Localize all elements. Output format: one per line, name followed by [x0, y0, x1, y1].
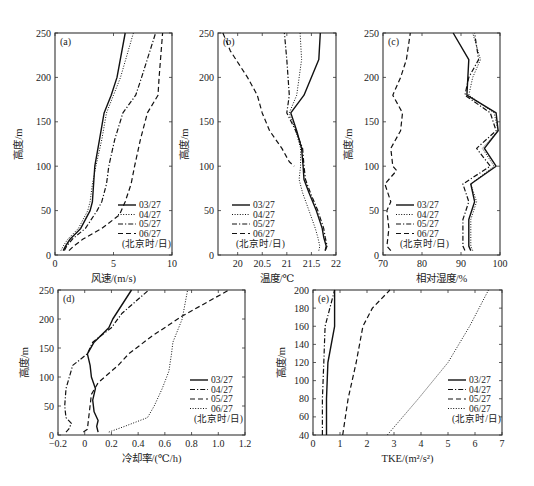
- series-line-05-27: [343, 290, 390, 435]
- series-line-03-27: [327, 290, 335, 435]
- x-tick-label: 1: [338, 438, 343, 449]
- x-tick-label: 10: [167, 258, 177, 269]
- x-tick-label: 0: [311, 438, 316, 449]
- x-tick-label: 22: [331, 258, 341, 269]
- y-tick-label: 150: [199, 116, 214, 127]
- x-tick-label: 21: [282, 258, 292, 269]
- legend-entry: 06/27: [417, 229, 439, 239]
- legend-entry: 04/27: [417, 210, 439, 220]
- y-tick-label: 250: [364, 28, 379, 39]
- y-tick-label: 150: [364, 116, 379, 127]
- series-line-05-27: [83, 290, 229, 432]
- x-axis-label: 相对湿度/%: [416, 272, 468, 284]
- y-tick-label: 200: [199, 72, 214, 83]
- x-tick-label: 5: [446, 438, 451, 449]
- x-tick-label: 0.6: [159, 438, 172, 449]
- legend-entry: 04/27: [139, 210, 161, 220]
- series-line-04-27: [65, 290, 149, 432]
- y-axis-label: 高度/m: [12, 128, 24, 159]
- chart-panel-a: 0510050100150200250风速/(m/s)高度/m(a)03/270…: [12, 28, 177, 286]
- series-line-03-27: [87, 290, 131, 432]
- legend-entry: 05/27: [253, 219, 275, 229]
- legend-entry: 06/27: [469, 404, 491, 414]
- legend-entry: 04/27: [469, 385, 491, 395]
- x-tick-label: 0.8: [185, 438, 198, 449]
- legend-entry: 04/27: [253, 210, 275, 220]
- figure-canvas: 0510050100150200250风速/(m/s)高度/m(a)03/270…: [0, 0, 534, 486]
- x-axis-label: TKE/(m²/s²): [382, 453, 434, 465]
- y-axis-label: 高度/m: [18, 347, 30, 378]
- y-tick-label: 100: [199, 161, 214, 172]
- legend-note: (北京时/日): [400, 238, 449, 250]
- x-tick-label: 20: [233, 258, 243, 269]
- legend: 03/2704/2705/2706/27(北京时/日): [232, 200, 285, 250]
- x-tick-label: 70: [378, 258, 388, 269]
- legend-note: (北京时/日): [122, 238, 171, 250]
- legend-entry: 04/27: [211, 385, 233, 395]
- y-tick-label: 50: [41, 205, 51, 216]
- x-tick-label: 3: [392, 438, 397, 449]
- legend: 03/2704/2705/2706/27(北京时/日): [396, 200, 449, 250]
- y-tick-label: 200: [39, 314, 54, 325]
- legend-note: (北京时/日): [194, 413, 243, 425]
- series-line-06-27: [223, 33, 294, 166]
- y-tick-label: 250: [36, 28, 51, 39]
- y-axis-label: 高度/m: [178, 128, 190, 159]
- panel-label: (a): [60, 36, 71, 48]
- y-tick-label: 100: [364, 161, 379, 172]
- legend-note: (北京时/日): [236, 238, 285, 250]
- panel-label: (c): [388, 36, 399, 48]
- y-axis-label: 高度/m: [275, 347, 287, 378]
- x-tick-label: 5: [111, 258, 116, 269]
- x-tick-label: 0: [82, 438, 87, 449]
- chart-panel-d: −0.200.20.40.60.81.01.2050100150200250冷却…: [18, 285, 251, 466]
- y-tick-label: 250: [199, 28, 214, 39]
- panel-label: (e): [318, 293, 329, 305]
- y-tick-label: 100: [294, 375, 309, 386]
- legend: 03/2704/2705/2706/27(北京时/日): [190, 375, 243, 425]
- x-tick-label: 6: [473, 438, 478, 449]
- series-line-04-27: [61, 33, 133, 251]
- legend: 03/2704/2705/2706/27(北京时/日): [448, 375, 501, 425]
- y-tick-label: 200: [36, 72, 51, 83]
- y-tick-label: 180: [294, 303, 309, 314]
- y-tick-label: 150: [39, 343, 54, 354]
- legend-entry: 05/27: [469, 394, 491, 404]
- x-tick-label: 21.5: [303, 258, 321, 269]
- chart-panel-c: 708090100050100150200250相对湿度/%高度/m(c)03/…: [342, 28, 508, 285]
- y-tick-label: 50: [44, 401, 54, 412]
- x-tick-label: 0.2: [105, 438, 118, 449]
- y-tick-label: 80: [299, 393, 309, 404]
- x-axis-label: 温度/℃: [260, 272, 295, 284]
- series-line-03-27: [291, 33, 326, 251]
- chart-panel-e: 01234567406080100120140160180200TKE/(m²/…: [275, 285, 505, 466]
- chart-panel-b: 2020.52121.522050100150200250温度/℃高度/m(b)…: [178, 28, 341, 285]
- legend-entry: 03/27: [211, 375, 233, 385]
- y-tick-label: 0: [46, 250, 51, 261]
- series-line-06-27: [385, 33, 410, 251]
- y-tick-label: 100: [39, 372, 54, 383]
- x-tick-label: 0.4: [132, 438, 145, 449]
- legend-entry: 05/27: [417, 219, 439, 229]
- y-tick-label: 0: [49, 430, 54, 441]
- y-tick-label: 100: [36, 161, 51, 172]
- y-tick-label: 200: [294, 285, 309, 296]
- x-tick-label: 2: [365, 438, 370, 449]
- y-tick-label: 40: [299, 430, 309, 441]
- x-tick-label: 0: [53, 258, 58, 269]
- legend-entry: 03/27: [469, 375, 491, 385]
- legend-entry: 03/27: [417, 200, 439, 210]
- plot-frame: [383, 33, 500, 255]
- y-tick-label: 160: [294, 321, 309, 332]
- x-tick-label: 80: [417, 258, 427, 269]
- y-tick-label: 0: [209, 250, 214, 261]
- x-axis-label: 冷却率/(℃/h): [122, 452, 182, 465]
- y-tick-label: 150: [36, 116, 51, 127]
- series-line-04-27: [289, 33, 320, 251]
- x-tick-label: 100: [493, 258, 508, 269]
- x-tick-label: 90: [456, 258, 466, 269]
- y-tick-label: 50: [369, 205, 379, 216]
- legend-entry: 06/27: [139, 229, 161, 239]
- y-axis-label: 高度/m: [342, 128, 354, 159]
- legend-entry: 03/27: [139, 200, 161, 210]
